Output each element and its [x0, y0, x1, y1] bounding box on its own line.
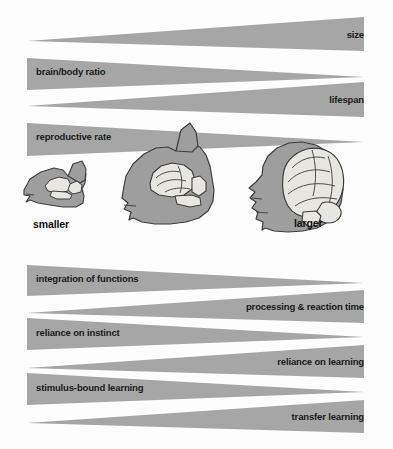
carnivore-muzzle-line: [124, 205, 136, 206]
carnivore-cerebellum-shape: [192, 176, 206, 196]
carnivore-brain-gyrus-2: [157, 180, 186, 186]
wedge-label-reliance-on-instinct: reliance on instinct: [36, 328, 120, 338]
wedge-label-stimulus-bound-learning: stimulus-bound learning: [36, 383, 143, 393]
head-label-smaller: smaller: [33, 219, 69, 230]
small-mammal-ear-shape: [68, 161, 86, 183]
carnivore-brain-shape: [150, 163, 195, 197]
small-mammal-snout-line: [26, 194, 34, 195]
human-brain-sulcus-5: [312, 150, 316, 196]
small-mammal-brainstem-shape: [50, 191, 72, 199]
carnivore-head-shape: [122, 145, 214, 224]
small-mammal-brain-shape: [45, 177, 71, 193]
carnivore-brain-gyrus-4: [178, 166, 182, 193]
wedge-label-size: size: [347, 30, 364, 40]
wedge-label-transfer-learning: transfer learning: [292, 412, 364, 422]
carnivore-brain-gyrus-3: [165, 188, 190, 192]
wedge-label-brain-body-ratio: brain/body ratio: [36, 67, 105, 77]
human-mouth-notch: [256, 212, 268, 213]
carnivore-ear-shape: [176, 123, 198, 152]
human-brain-sulcus-3: [288, 184, 335, 194]
small-mammal-head-shape: [24, 168, 86, 207]
wedge-shape-size: [27, 17, 364, 51]
wedge-label-reproductive-rate: reproductive rate: [36, 132, 111, 142]
human-brain-sulcus-2: [288, 170, 330, 182]
wedge-label-processing-reaction-time: processing & reaction time: [246, 302, 364, 312]
human-brain-sulcus-1: [292, 157, 325, 168]
wedge-shape-lifespan: [27, 82, 364, 117]
wedge-label-integration-of-functions: integration of functions: [36, 274, 138, 284]
wedge-label-reliance-on-learning: reliance on learning: [277, 357, 364, 367]
small-mammal-cerebellum-shape: [68, 181, 82, 194]
head-label-larger: larger: [294, 218, 323, 229]
carnivore-brainstem-shape: [175, 195, 201, 207]
human-brain-sulcus-4: [295, 198, 337, 206]
human-nose-notch: [252, 198, 262, 199]
human-brain-shape: [283, 148, 344, 217]
small-mammal-head-group: [24, 161, 86, 207]
brain-comparison-figure: size brain/body ratio lifespan reproduct…: [0, 0, 393, 449]
carnivore-head-group: [122, 123, 214, 224]
carnivore-brain-gyrus-1: [156, 171, 180, 178]
wedge-label-lifespan: lifespan: [329, 95, 364, 105]
human-brain-sulcus-6: [328, 156, 332, 204]
